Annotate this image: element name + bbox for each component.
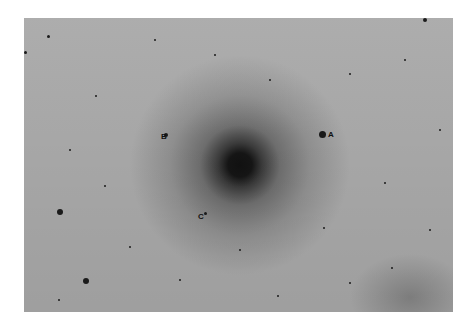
star-label-a: A [328,131,334,139]
star [47,35,50,38]
star [319,131,326,138]
star [69,149,71,151]
star [429,229,431,231]
star [349,73,351,75]
star [83,278,89,284]
star [129,246,131,248]
star [423,18,427,22]
star [58,299,60,301]
cluster-photo [24,18,453,312]
star [95,95,97,97]
star [349,282,351,284]
star [179,279,181,281]
star [24,51,27,54]
star [57,209,63,215]
star [439,129,441,131]
star-label-c: C [198,213,204,221]
star [404,59,406,61]
star-label-b: B [161,133,167,141]
photo-shading [24,18,453,312]
star [214,54,216,56]
